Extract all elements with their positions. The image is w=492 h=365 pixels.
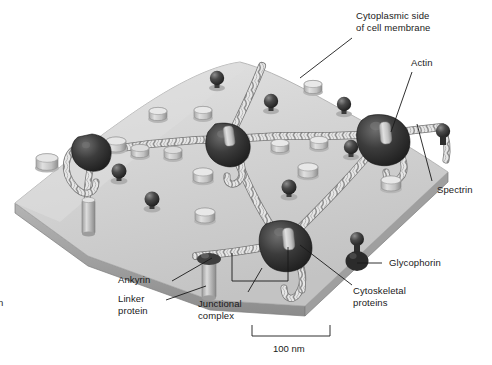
actin-junction-upper-right [357,115,410,166]
label-actin: Actin [411,57,433,69]
protein-cylinder [148,107,168,123]
protein-cylinder [303,80,323,96]
glycophorin-sphere [281,180,298,201]
protein-cylinder [309,136,329,152]
diagram-canvas [0,0,492,365]
glycophorin-sphere [209,71,225,91]
glycophorin-sphere [336,97,352,117]
protein-cylinder [130,144,150,160]
protein-cylinder [270,139,290,155]
glycophorin-sphere [144,192,161,213]
label-spectrin: Spectrin [437,184,473,196]
glycophorin-sphere [111,164,128,185]
scale-bar [252,325,330,336]
glycophorin-sphere [343,140,359,160]
leader-cytoplasmic-side [300,38,352,78]
linker-protein-left [82,197,95,236]
label-junctional-complex: Junctional complex [198,298,242,321]
protein-cylinder [297,163,319,180]
protein-cylinder [380,176,402,193]
scale-bar-bracket [252,325,330,336]
scale-bar-label: 100 nm [273,343,305,354]
page-edge-text-fragment: n [0,297,3,308]
glycophorin-sphere [263,94,279,114]
ankyrin-knob [197,253,221,265]
membrane-cytoskeleton-figure: Cytoplasmic side of cell membrane Actin … [0,0,492,365]
label-linker-protein: Linker protein [118,293,148,316]
protein-cylinder [193,106,213,122]
label-ankyrin: Ankyrin [118,274,150,286]
label-cytoplasmic-side: Cytoplasmic side of cell membrane [356,10,430,33]
protein-cylinder [194,208,216,225]
protein-cylinder [35,154,59,173]
protein-cylinder [192,168,214,185]
label-cytoskeletal-proteins: Cytoskeletal proteins [353,285,406,308]
label-glycophorin: Glycophorin [389,257,441,269]
protein-cylinder [163,146,183,162]
